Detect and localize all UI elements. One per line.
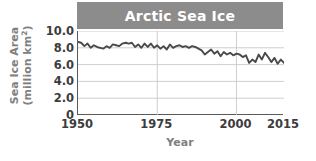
- y-axis-tick-label: 8.0: [54, 41, 74, 55]
- x-axis-title: Year: [77, 136, 283, 149]
- plot-svg: [78, 31, 284, 115]
- x-axis-tick-label: 1950: [61, 117, 93, 131]
- y-axis-tick-label: 4.0: [54, 74, 74, 88]
- y-axis-tick-label: 6.0: [54, 58, 74, 72]
- plot-area: [77, 31, 283, 115]
- chart-title-banner: Arctic Sea Ice: [77, 2, 283, 29]
- y-axis-units-exponent: 2: [19, 30, 28, 35]
- y-axis-tick-label: 2.0: [54, 91, 74, 105]
- x-axis-tick-label: 1975: [140, 117, 172, 131]
- chart-title: Arctic Sea Ice: [125, 8, 235, 24]
- y-axis-units-prefix: (million km: [21, 35, 34, 105]
- horizontal-gridlines: [78, 31, 284, 98]
- y-axis-units-suffix: ): [21, 25, 34, 30]
- x-axis-tick-label: 2015: [267, 117, 299, 131]
- vertical-gridlines: [157, 31, 236, 115]
- y-axis-tick-label: 10.0: [46, 24, 74, 38]
- chart-figure: Sea Ice Area (million km2) 10.08.06.04.0…: [0, 0, 316, 161]
- y-axis-title-line1: Sea Ice Area: [9, 26, 22, 103]
- data-line-arctic-sea-ice: [78, 42, 284, 64]
- y-axis-title-line2: (million km2): [22, 25, 35, 105]
- x-axis-tick-label: 2000: [219, 117, 251, 131]
- y-axis-tick-labels: 10.08.06.04.02.00: [38, 31, 74, 115]
- x-axis-tick-labels: 1950197520002015: [0, 117, 316, 135]
